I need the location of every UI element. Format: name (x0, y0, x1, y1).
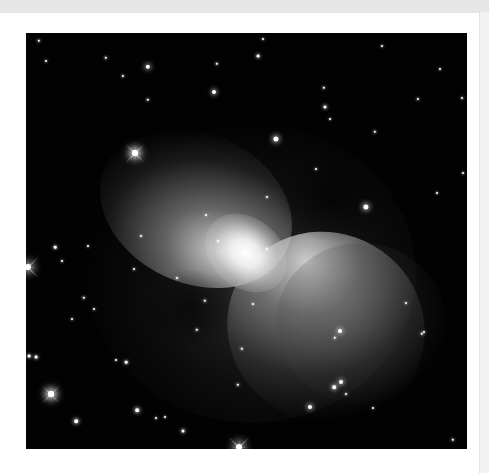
star (339, 380, 343, 384)
star (155, 417, 157, 419)
star (405, 302, 407, 304)
star (315, 168, 317, 170)
star (423, 331, 425, 333)
star (324, 106, 327, 109)
star (363, 204, 368, 209)
star (257, 55, 260, 58)
star (28, 355, 31, 358)
nebula-outer-glow (86, 123, 416, 423)
star (83, 297, 85, 299)
page-top-band (0, 0, 489, 12)
nebula-lobe-upper-left (74, 98, 319, 318)
star (439, 68, 441, 70)
nebula-dark-waist-left (146, 268, 236, 348)
star (266, 196, 268, 198)
star (461, 97, 463, 99)
star (87, 245, 89, 247)
star (115, 359, 117, 361)
star (133, 268, 135, 270)
star (61, 260, 63, 262)
star (147, 99, 149, 101)
star (237, 384, 239, 386)
star (308, 405, 312, 409)
star (374, 131, 376, 133)
star (71, 318, 73, 320)
star (38, 40, 40, 42)
star (338, 329, 342, 333)
star (74, 419, 78, 423)
star (54, 246, 57, 249)
scroll-gutter (480, 12, 489, 473)
nebula-dark-waist-right (276, 153, 386, 243)
star (164, 416, 166, 418)
star (381, 45, 383, 47)
star (182, 430, 185, 433)
star (262, 38, 264, 40)
star (421, 333, 423, 335)
bright-star (132, 150, 138, 156)
star (345, 393, 347, 395)
star (93, 308, 95, 310)
star (216, 63, 218, 65)
star (436, 192, 438, 194)
star (35, 356, 38, 359)
star (176, 277, 178, 279)
star (252, 303, 254, 305)
nebula-wing-lower-right (276, 243, 446, 403)
star (329, 118, 331, 120)
star (45, 60, 47, 62)
star (452, 439, 454, 441)
star (122, 75, 124, 77)
nebula-photo (26, 33, 467, 449)
star (135, 408, 139, 412)
star (125, 361, 128, 364)
star (334, 337, 336, 339)
bright-star (48, 391, 54, 397)
star (105, 57, 107, 59)
star (462, 172, 464, 174)
star (273, 136, 278, 141)
nebula-lobe-lower-right (192, 196, 460, 449)
star (266, 248, 268, 250)
star (196, 329, 198, 331)
star (217, 240, 219, 242)
bright-star (236, 444, 242, 449)
star (241, 348, 243, 350)
star (146, 65, 150, 69)
star (417, 98, 419, 100)
star (332, 385, 336, 389)
star (204, 300, 206, 302)
star (205, 214, 207, 216)
star (140, 235, 142, 237)
star (372, 407, 374, 409)
star (212, 90, 216, 94)
star (323, 87, 325, 89)
